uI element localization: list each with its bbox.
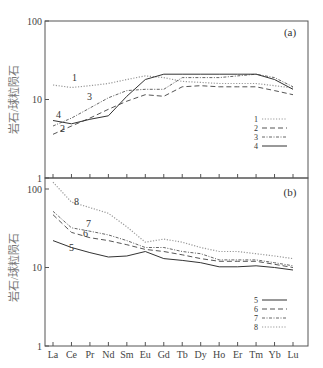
x-tick-label: Er <box>233 349 243 360</box>
ree-pattern-chart: 100101岩石/球粒陨石11223344(a) 100101LaCePrNdS… <box>0 0 323 368</box>
legend-label: 1 <box>254 115 258 124</box>
legend-label: 6 <box>254 305 258 314</box>
x-tick-label: Yb <box>268 349 280 360</box>
x-tick-label: La <box>48 349 59 360</box>
y-axis-label: 岩石/球粒陨石 <box>7 233 20 302</box>
y-tick-label: 100 <box>27 16 42 27</box>
series-number-label: 3 <box>87 91 92 102</box>
x-tick-label: Sm <box>120 349 134 360</box>
x-tick-label: Tm <box>249 349 263 360</box>
panel-label: (b) <box>284 186 297 199</box>
legend-label: 2 <box>254 124 258 133</box>
y-tick-label: 10 <box>32 94 42 105</box>
series-number-label: 5 <box>69 242 74 253</box>
x-tick-label: Dy <box>195 349 207 360</box>
legend-label: 8 <box>254 323 258 332</box>
y-axis-label: 岩石/球粒陨石 <box>7 65 20 134</box>
panel-a: 100101岩石/球粒陨石11223344(a) <box>7 16 308 184</box>
x-tick-label: Pr <box>85 349 95 360</box>
y-tick-label: 10 <box>32 262 42 273</box>
series-number-label: 7 <box>86 218 91 229</box>
legend-label: 7 <box>254 314 258 323</box>
y-tick-label: 1 <box>37 341 42 352</box>
x-tick-label: Ho <box>213 349 225 360</box>
series-number-label: 1 <box>72 72 77 83</box>
legend-label: 3 <box>254 133 258 142</box>
x-tick-label: Tb <box>177 349 188 360</box>
x-tick-label: Lu <box>287 349 298 360</box>
series-number-label: 8 <box>74 196 79 207</box>
series-line-1 <box>53 76 293 88</box>
legend-label: 4 <box>254 142 258 151</box>
y-tick-label: 1 <box>37 173 42 184</box>
plot-frame <box>45 21 308 178</box>
x-tick-label: Ce <box>66 349 78 360</box>
series-line-5 <box>53 241 293 270</box>
series-number-label: 4 <box>56 109 61 120</box>
series-number-label: 2 <box>60 123 65 134</box>
x-tick-label: Gd <box>158 349 170 360</box>
panel-b: 100101LaCePrNdSmEuGdTbDyHoErTmYbLu岩石/球粒陨… <box>7 178 308 360</box>
x-tick-label: Eu <box>140 349 151 360</box>
panel-label: (a) <box>284 26 297 39</box>
x-tick-label: Nd <box>102 349 114 360</box>
legend-label: 5 <box>254 296 258 305</box>
y-tick-label: 100 <box>27 184 42 195</box>
